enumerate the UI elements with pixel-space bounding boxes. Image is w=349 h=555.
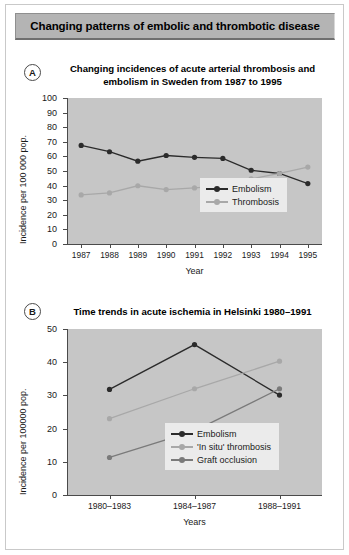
legend-label: Thrombosis [232, 197, 279, 207]
data-point-marker [107, 149, 112, 154]
data-point-marker [79, 192, 84, 197]
data-point-marker [277, 392, 282, 397]
data-point-marker [79, 143, 84, 148]
panel-b-title: Time trends in acute ischemia in Helsink… [50, 305, 335, 318]
data-point-marker [192, 185, 197, 190]
legend-row: 'In situ' thrombosis [171, 440, 271, 453]
data-point-marker [277, 386, 282, 391]
data-point-marker [107, 387, 112, 392]
legend-row: Graft occlusion [171, 453, 271, 466]
data-point-marker [164, 187, 169, 192]
legend-label: Embolism [232, 184, 272, 194]
panel-b-badge: B [24, 303, 41, 320]
chart-a: 0102030405060708090100198719881989199019… [0, 96, 349, 286]
data-point-marker [192, 155, 197, 160]
data-point-marker [305, 164, 310, 169]
chart-b-y-axis-title: Incidence per 100000 pop. [18, 388, 28, 495]
chart-b-x-axis-title: Years [67, 517, 322, 527]
data-point-marker [192, 386, 197, 391]
data-point-marker [107, 190, 112, 195]
chart-a-series-layer [0, 96, 349, 286]
legend-row: Embolism [171, 427, 271, 440]
panel-a-title: Changing incidences of acute arterial th… [50, 62, 335, 88]
chart-b-legend: Embolism'In situ' thrombosisGraft occlus… [165, 423, 279, 470]
legend-marker-icon [171, 455, 193, 465]
data-point-marker [192, 342, 197, 347]
data-point-marker [107, 455, 112, 460]
panel-a-badge: A [24, 64, 41, 81]
legend-row: Thrombosis [206, 195, 279, 208]
legend-label: Embolism [197, 429, 237, 439]
chart-a-legend: EmbolismThrombosis [200, 178, 287, 212]
data-point-marker [277, 171, 282, 176]
chart-b: 010203040501980–19831984–19871988–1991 E… [0, 327, 349, 545]
legend-marker-icon [171, 442, 193, 452]
data-point-marker [277, 359, 282, 364]
figure-title: Changing patterns of embolic and thrombo… [30, 20, 319, 32]
data-point-marker [305, 181, 310, 186]
legend-row: Embolism [206, 182, 279, 195]
legend-marker-icon [206, 197, 228, 207]
data-point-marker [107, 416, 112, 421]
legend-marker-icon [171, 429, 193, 439]
chart-a-y-axis-title: Incidence per 100 000 pop. [18, 135, 28, 244]
data-point-marker [220, 156, 225, 161]
panel-b: B Time trends in acute ischemia in Helsi… [0, 295, 349, 550]
figure-root: Changing patterns of embolic and thrombo… [0, 0, 349, 555]
legend-label: Graft occlusion [197, 455, 257, 465]
panel-a: A Changing incidences of acute arterial … [0, 52, 349, 290]
figure-title-bar: Changing patterns of embolic and thrombo… [15, 13, 335, 40]
data-point-marker [164, 153, 169, 158]
legend-marker-icon [206, 184, 228, 194]
legend-label: 'In situ' thrombosis [197, 442, 271, 452]
data-point-marker [249, 168, 254, 173]
chart-a-x-axis-title: Year [67, 266, 322, 276]
data-point-marker [135, 183, 140, 188]
data-point-marker [135, 159, 140, 164]
